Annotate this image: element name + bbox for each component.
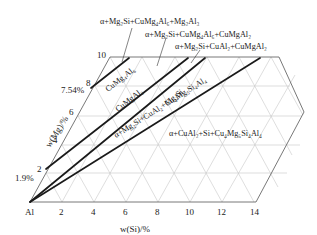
phase-label-top3: α+Mg₂Si+CuAl₂+CuMgAl₂ [175,42,267,51]
x-tick-6: 6 [123,207,128,217]
x-tick-14: 14 [250,207,260,217]
x-tick-12: 12 [217,207,226,217]
phase-label-top1: α+Mg₂Si+CuMg₄Al₆+Mg₂Al₃ [100,17,199,26]
y-mark-1-9: 1.9% [15,173,34,183]
x-tick-10: 10 [185,207,195,217]
y-tick-8: 8 [86,78,91,88]
phase-diagram: α+Mg₂Si+CuMg₄Al₆+Mg₂Al₃ α+Mg₂Si+CuMg₄Al₆… [0,0,317,235]
x-tick-4: 4 [91,207,96,217]
region-label-bottom: α+CuAl₂+Si+Cu₄Mg₅Si₄Al₄ [169,129,262,138]
x-axis-title: w(Si)/% [120,224,151,234]
y-mark-7-54: 7.54% [61,85,85,95]
diagram-frame [30,57,304,202]
x-tick-2: 2 [59,207,64,217]
region-label-cumg4al6: CuMg₄Al₆ [104,65,137,94]
y-tick-10: 10 [97,50,107,60]
y-tick-2: 2 [37,164,42,174]
boundary-line-2 [46,58,188,169]
x-tick-al: Al [25,207,34,217]
x-tick-8: 8 [155,207,160,217]
y-tick-6: 6 [69,107,74,117]
phase-label-top2: α+Mg₂Si+CuMg₄Al₆+CuMgAl₂ [145,30,251,39]
